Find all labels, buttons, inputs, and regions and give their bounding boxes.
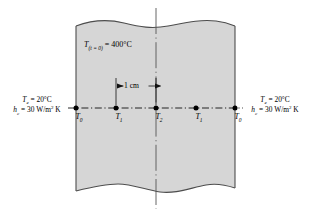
right-env-coef-unit: K (292, 106, 299, 115)
right-env-temp-value: = 20°C (267, 95, 290, 104)
node-dot-T1-right (194, 106, 199, 111)
node-label-T0-left: T0 (68, 112, 90, 123)
initial-temp-value: 400 (111, 40, 123, 49)
node-label-T0-right-subscript: 0 (239, 117, 242, 123)
initial-temp-unit: °C (123, 40, 132, 49)
node-label-T1-right-subscript: 1 (200, 117, 203, 123)
node-dot-T2 (154, 106, 159, 111)
node-dot-T1-left (114, 106, 119, 111)
node-label-T1-right: T1 (188, 112, 210, 123)
node-label-T2: T2 (148, 112, 170, 123)
dimension-label: 1 cm (124, 81, 139, 90)
left-env-coef-value: = 30 W/m (19, 106, 51, 115)
node-label-T1-left: T1 (108, 112, 130, 123)
right-environment-label: Te = 20°C hc = 30 W/m2 K (239, 95, 311, 116)
right-env-coef-value: = 30 W/m (257, 106, 289, 115)
initial-temp-subscript: (t = 0) (88, 45, 102, 51)
left-env-temp-value: = 20°C (29, 95, 52, 104)
node-dot-T0-right (233, 106, 238, 111)
initial-temp-equals: = (103, 40, 112, 49)
left-env-coef-row: hc = 30 W/m2 K (1, 105, 73, 116)
heat-conduction-figure: T(t = 0) = 400°C 1 cm Te = 20°C hc = 30 … (0, 0, 311, 216)
dimension-text: 1 cm (124, 81, 139, 90)
node-dot-T0-left (74, 106, 79, 111)
node-label-T1-left-subscript: 1 (120, 117, 123, 123)
left-env-temp-row: Te = 20°C (1, 95, 73, 105)
node-label-T0-right: T0 (227, 112, 249, 123)
left-environment-label: Te = 20°C hc = 30 W/m2 K (1, 95, 73, 116)
node-label-T0-left-subscript: 0 (80, 117, 83, 123)
node-label-T2-subscript: 2 (160, 117, 163, 123)
right-env-temp-row: Te = 20°C (239, 95, 311, 105)
left-env-coef-unit: K (54, 106, 61, 115)
initial-temperature-label: T(t = 0) = 400°C (84, 40, 132, 51)
right-env-coef-row: hc = 30 W/m2 K (239, 105, 311, 116)
